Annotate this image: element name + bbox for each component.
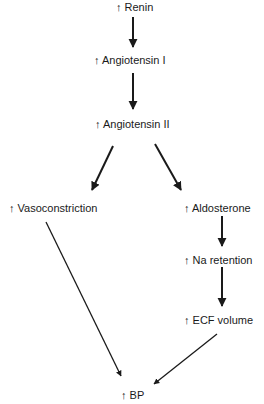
- arrow-ecf-volume-to-bp: [154, 334, 217, 384]
- arrow-angiotensin-ii-to-vasoconstriction: [92, 146, 113, 190]
- arrow-angiotensin-ii-to-aldosterone: [155, 144, 181, 190]
- arrow-vasoconstriction-to-bp: [46, 222, 121, 376]
- arrows-layer: [0, 0, 264, 404]
